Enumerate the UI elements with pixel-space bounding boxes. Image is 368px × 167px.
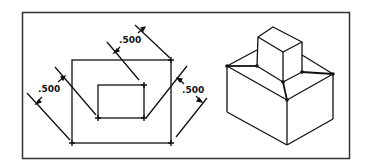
dimension-label-right: .500 [182,85,204,95]
extension-line [146,66,187,118]
small-block-edge [257,37,258,66]
extension-line [27,93,70,140]
right-isometric-view [225,27,335,145]
dimension-label-top: .500 [119,35,141,45]
large-box-edge [227,112,287,145]
dimension-labels: .500 .500 .500 [38,35,204,95]
extension-line [107,42,139,80]
extension-line [55,67,96,115]
middle-rectangle [72,60,171,143]
extension-line [176,98,207,137]
inner-rectangle [98,85,144,118]
large-box-edge [227,66,287,100]
large-box-edge [302,55,333,74]
large-box-edge [287,74,333,100]
technical-drawing: .500 .500 .500 [0,0,368,167]
small-block-edge [257,66,283,82]
large-box-edge [227,50,257,66]
small-block-edge [283,72,302,82]
small-block-top [258,27,302,52]
large-box-edge [287,119,333,145]
dimension-label-left: .500 [38,84,60,94]
